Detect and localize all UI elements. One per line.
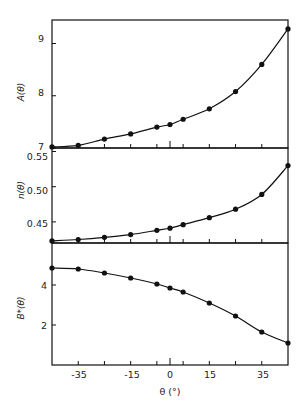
data-point (233, 207, 238, 212)
xtick-m35: -35 (71, 369, 87, 380)
xtick-35: 35 (257, 369, 269, 380)
data-point (128, 131, 133, 136)
panel-b-ylabel: B*(θ) (16, 296, 26, 319)
data-point (167, 226, 172, 231)
data-point (285, 163, 290, 168)
data-point (128, 275, 133, 280)
p1-ytick-8: 8 (38, 87, 44, 98)
panel-b-frame (52, 243, 288, 365)
data-point (102, 270, 107, 275)
chart-figure: 9 8 7 0.55 0.50 0.45 4 2 A(θ) n(θ) B*(θ)… (0, 0, 306, 420)
data-point (233, 313, 238, 318)
data-point (259, 192, 264, 197)
x-axis-label: θ (°) (160, 386, 181, 397)
p2-ytick-050: 0.50 (27, 185, 48, 196)
data-point (167, 122, 172, 127)
data-point (102, 137, 107, 142)
p2-ytick-055: 0.55 (27, 151, 48, 162)
xtick-15: 15 (204, 369, 216, 380)
data-point (76, 143, 81, 148)
data-point (128, 232, 133, 237)
panel-n-ylabel: n(θ) (16, 181, 26, 199)
data-point (167, 285, 172, 290)
p2-ytick-045: 0.45 (27, 218, 48, 229)
data-point (259, 62, 264, 67)
data-point (49, 238, 54, 243)
data-point (285, 26, 290, 31)
p3-ytick-2: 2 (41, 320, 47, 331)
data-point (181, 289, 186, 294)
data-point (76, 237, 81, 242)
xtick-m15: -15 (124, 369, 140, 380)
data-point (207, 106, 212, 111)
p3-ytick-4: 4 (41, 280, 47, 291)
data-point (49, 144, 54, 149)
panel-a-ylabel: A(θ) (16, 83, 26, 103)
data-point (207, 215, 212, 220)
p1-ytick-9: 9 (38, 33, 44, 44)
data-point (181, 222, 186, 227)
data-point (181, 117, 186, 122)
data-point (154, 228, 159, 233)
xtick-0: 0 (167, 369, 173, 380)
data-point (207, 300, 212, 305)
panel-a-frame (52, 20, 288, 148)
data-point (154, 281, 159, 286)
data-point (285, 340, 290, 345)
data-point (154, 125, 159, 130)
data-point (233, 89, 238, 94)
series-curve (52, 268, 288, 343)
data-point (49, 265, 54, 270)
data-point (259, 329, 264, 334)
data-point (102, 235, 107, 240)
data-point (76, 266, 81, 271)
series-curve (52, 29, 288, 147)
